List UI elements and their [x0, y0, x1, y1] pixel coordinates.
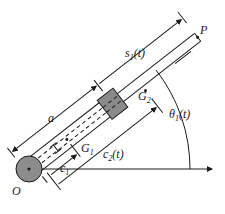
pivot-center [27, 167, 30, 170]
g1-section-mark [53, 145, 58, 151]
label-c2: c2(t) [103, 147, 124, 163]
label-a: a [48, 111, 54, 125]
label-g2: G2 [138, 89, 151, 105]
g1-point [65, 137, 69, 141]
label-c1: c1 [60, 161, 69, 177]
label-s1: s1(t) [125, 46, 145, 62]
slider-block [97, 88, 128, 119]
label-theta1: θ1(t) [169, 107, 190, 123]
label-tip-p: P [199, 23, 208, 37]
label-origin: O [12, 184, 21, 198]
diagram-canvas: O P a s1(t) G2 θ1(t) G1 c1 c2(t) [0, 0, 225, 214]
label-g1: G1 [81, 141, 94, 157]
